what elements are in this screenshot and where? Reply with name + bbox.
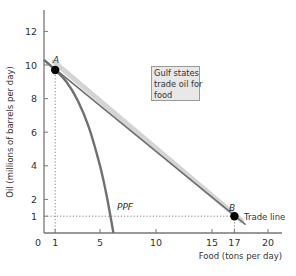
x-tick-label: 5 [97, 237, 103, 248]
y-tick-label: 8 [31, 93, 37, 104]
x-tick-label: 15 [206, 237, 218, 248]
callout-gulf-states: Gulf states trade oil for food [151, 66, 200, 101]
y-axis-title: Oil (millions of barrels per day) [5, 66, 15, 198]
y-tick-label: 6 [31, 127, 37, 138]
x-tick-label: 1 [52, 237, 58, 248]
callout-line-3: food [154, 90, 197, 101]
y-tick-label: 4 [31, 160, 37, 171]
axes [44, 10, 282, 233]
y-tick-label: 1 [31, 211, 37, 222]
x-tick-label: 0 [35, 237, 41, 248]
reference-lines [44, 70, 234, 233]
x-tick-label: 20 [262, 237, 274, 248]
point-a-marker [51, 66, 59, 74]
x-axis-title: Food (tons per day) [199, 251, 282, 261]
y-tick-label: 10 [25, 60, 37, 71]
trade-line-shadow [54, 62, 242, 221]
y-tick-label: 2 [31, 194, 37, 205]
callout-line-2: trade oil for [154, 79, 197, 90]
x-tick-label: 10 [150, 237, 162, 248]
ppf-label: PPF [117, 202, 134, 212]
trade-line-label: Trade line [243, 212, 285, 222]
x-tick-label: 17 [228, 237, 240, 248]
y-tick-label: 12 [25, 26, 37, 37]
callout-line-1: Gulf states [154, 68, 197, 79]
chart-canvas: 01510151720124681012 Oil (millions of ba… [0, 0, 296, 276]
point-a-label: A [52, 55, 59, 65]
point-b-label: B [229, 203, 235, 213]
trade-line [44, 60, 246, 225]
point-b-marker [230, 212, 238, 220]
series [44, 60, 246, 233]
